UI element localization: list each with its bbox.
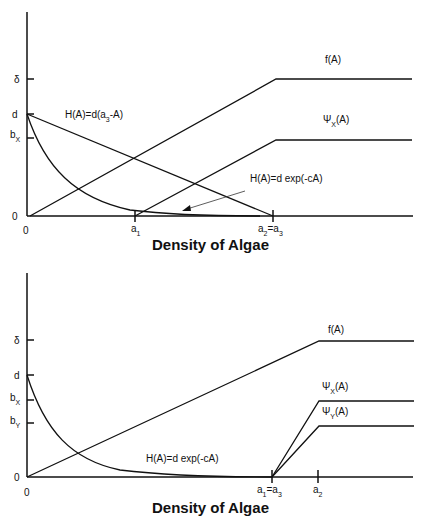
top-label-h-exp: H(A)=d exp(-cA)	[250, 173, 323, 184]
top-curve-h-linear	[27, 114, 273, 216]
bottom-label-y0: 0	[14, 472, 20, 483]
top-label-y0: 0	[12, 211, 18, 222]
top-label-bx: bX	[10, 129, 21, 143]
top-label-delta: δ	[14, 74, 20, 85]
top-label-a2a3: a2=a3	[258, 223, 283, 237]
top-curve-f	[30, 79, 412, 216]
top-curve-h-exp	[27, 114, 260, 216]
bottom-label-a2: a2	[313, 484, 323, 498]
bottom-panel: δ d bX bY 0 0 a1=a3 a2 Density of Algae …	[10, 273, 414, 516]
top-annotation-arrow	[187, 191, 245, 209]
bottom-curve-psi-y	[272, 426, 414, 477]
bottom-label-psi-x: ΨX(A)	[322, 381, 348, 395]
bottom-label-a1a3: a1=a3	[257, 484, 282, 498]
top-label-a1: a1	[131, 223, 141, 237]
top-label-psi-x: ΨX(A)	[323, 114, 349, 128]
top-label-x0: 0	[23, 225, 29, 236]
top-label-d: d	[12, 109, 18, 120]
bottom-label-d: d	[14, 370, 20, 381]
top-panel: δ d bX 0 0 a1 a2=a3 Density of Algae f(A…	[10, 12, 413, 253]
bottom-label-by: bY	[10, 415, 21, 429]
bottom-x-axis-title: Density of Algae	[152, 499, 269, 516]
bottom-curve-f	[27, 341, 414, 477]
top-x-axis-title: Density of Algae	[152, 236, 269, 253]
bottom-label-delta: δ	[14, 335, 20, 346]
top-label-f: f(A)	[325, 54, 341, 65]
bottom-label-x0: 0	[24, 487, 30, 498]
top-label-h-linear: H(A)=d(a3-A)	[65, 109, 123, 123]
bottom-label-psi-y: ΨY(A)	[322, 406, 348, 420]
bottom-label-bx: bX	[10, 392, 21, 406]
algae-density-diagrams: δ d bX 0 0 a1 a2=a3 Density of Algae f(A…	[0, 0, 427, 525]
bottom-label-h-exp: H(A)=d exp(-cA)	[146, 453, 219, 464]
bottom-label-f: f(A)	[328, 324, 344, 335]
arrowhead-icon	[182, 205, 191, 211]
